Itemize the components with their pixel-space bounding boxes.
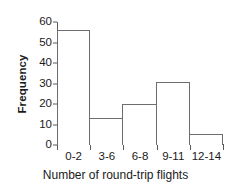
y-axis-tick-label: 30 bbox=[39, 78, 52, 90]
y-axis-tick-label: 10 bbox=[39, 119, 52, 131]
x-axis-tick-label: 0-2 bbox=[57, 150, 90, 162]
y-axis-tick-label: 60 bbox=[39, 16, 52, 28]
bar-slot bbox=[190, 22, 223, 145]
bar-slot bbox=[157, 22, 190, 145]
bar-slot bbox=[90, 22, 123, 145]
y-axis-tick-label: 40 bbox=[39, 57, 52, 69]
y-axis-tick-label: 0 bbox=[46, 139, 52, 151]
histogram-bar bbox=[189, 134, 223, 145]
bar-slot bbox=[123, 22, 156, 145]
x-axis-tick-label: 12-14 bbox=[190, 150, 223, 162]
x-axis-tick-labels: 0-23-66-89-1112-14 bbox=[57, 150, 223, 162]
y-axis-tick-label: 50 bbox=[39, 37, 52, 49]
histogram-bar bbox=[89, 118, 123, 145]
x-axis-tick-label: 6-8 bbox=[123, 150, 156, 162]
histogram-bar bbox=[156, 82, 190, 145]
x-axis-tick-label: 9-11 bbox=[157, 150, 190, 162]
histogram-chart: Frequency 0102030405060 0-23-66-89-1112-… bbox=[0, 0, 231, 193]
x-axis-tick-label: 3-6 bbox=[90, 150, 123, 162]
x-axis-tick-mark bbox=[223, 145, 224, 150]
x-axis-title: Number of round-trip flights bbox=[0, 168, 231, 182]
plot-area: 0102030405060 bbox=[57, 22, 223, 145]
histogram-bar bbox=[122, 104, 156, 145]
histogram-bar bbox=[57, 30, 90, 145]
y-axis-tick-label: 20 bbox=[39, 98, 52, 110]
bar-series bbox=[57, 22, 223, 145]
y-axis-title: Frequency bbox=[16, 29, 28, 139]
bar-slot bbox=[57, 22, 90, 145]
